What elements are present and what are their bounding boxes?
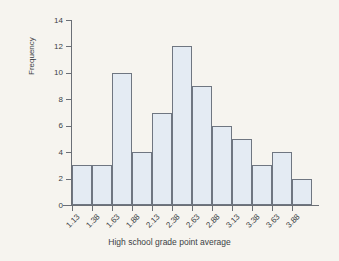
x-axis-tick bbox=[152, 206, 153, 211]
x-axis-tick-label: 1.38 bbox=[85, 213, 102, 230]
x-axis-tick bbox=[172, 206, 173, 211]
histogram-bar bbox=[152, 113, 172, 206]
plot-area bbox=[72, 20, 312, 205]
y-axis-tick-label: 2 bbox=[59, 175, 63, 183]
x-axis-tick bbox=[192, 206, 193, 211]
histogram-bar bbox=[232, 139, 252, 205]
x-axis-tick-label: 3.63 bbox=[265, 213, 282, 230]
x-axis-tick bbox=[252, 206, 253, 211]
y-axis-title: Frequency bbox=[28, 37, 36, 75]
histogram-bar bbox=[92, 165, 112, 205]
y-axis-tick-label: 14 bbox=[54, 17, 63, 25]
x-axis-tick bbox=[132, 206, 133, 211]
x-axis-tick bbox=[92, 206, 93, 211]
x-axis-tick-label: 3.38 bbox=[245, 213, 262, 230]
x-axis-tick bbox=[292, 206, 293, 211]
histogram-figure: Frequency 02468101214 1.131.381.631.882.… bbox=[0, 0, 339, 261]
histogram-bar bbox=[172, 46, 192, 205]
x-axis-tick bbox=[212, 206, 213, 211]
x-axis-tick bbox=[112, 206, 113, 211]
x-axis-tick bbox=[232, 206, 233, 211]
x-axis-tick-label: 1.88 bbox=[125, 213, 142, 230]
x-axis-tick-label: 1.63 bbox=[105, 213, 122, 230]
x-axis-tick-label: 3.13 bbox=[225, 213, 242, 230]
y-axis-tick-label: 6 bbox=[59, 122, 63, 130]
x-axis-line bbox=[63, 205, 319, 206]
x-axis-tick-label: 2.13 bbox=[145, 213, 162, 230]
y-axis-tick-label: 8 bbox=[59, 96, 63, 104]
histogram-bar bbox=[252, 165, 272, 205]
histogram-bar bbox=[212, 126, 232, 205]
histogram-bar bbox=[72, 165, 92, 205]
x-axis-tick-label: 3.88 bbox=[285, 213, 302, 230]
histogram-bar bbox=[112, 73, 132, 205]
y-axis-tick-label: 4 bbox=[59, 149, 63, 157]
x-axis-tick-label: 1.13 bbox=[65, 213, 82, 230]
x-axis-title: High school grade point average bbox=[0, 238, 339, 247]
y-axis-tick-label: 12 bbox=[54, 43, 63, 51]
x-axis-tick-label: 2.38 bbox=[165, 213, 182, 230]
histogram-bar bbox=[192, 86, 212, 205]
x-axis-tick-label: 2.88 bbox=[205, 213, 222, 230]
x-axis-tick bbox=[72, 206, 73, 211]
histogram-bar bbox=[272, 152, 292, 205]
x-axis-tick-label: 2.63 bbox=[185, 213, 202, 230]
histogram-bar bbox=[292, 179, 312, 205]
y-axis-tick-label: 0 bbox=[59, 202, 63, 210]
x-axis-tick bbox=[272, 206, 273, 211]
y-axis-tick-label: 10 bbox=[54, 69, 63, 77]
histogram-bar bbox=[132, 152, 152, 205]
